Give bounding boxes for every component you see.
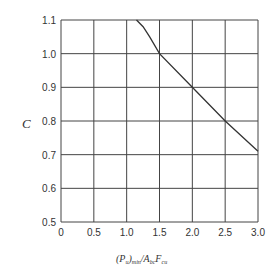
tick-label: 1.1 [42, 15, 56, 26]
tick-label: 0.5 [42, 217, 56, 228]
tick-label: 3.0 [251, 227, 265, 238]
tick-label: 0.6 [42, 183, 56, 194]
tick-label: 1.0 [42, 49, 56, 60]
tick-label: 0.9 [42, 82, 56, 93]
tick-label: 2.0 [185, 227, 199, 238]
chart: 00.51.01.52.02.53.00.50.60.70.80.91.01.1… [0, 0, 273, 276]
tick-label: 0 [58, 227, 64, 238]
tick-label: 1.5 [153, 227, 167, 238]
tick-label: 2.5 [218, 227, 232, 238]
tick-label: 0.8 [42, 116, 56, 127]
x-axis-label: (Pu)min/AbcFcu [116, 253, 167, 265]
data-curve [137, 20, 259, 151]
y-axis-label: C [22, 116, 31, 131]
tick-label: 1.0 [120, 227, 134, 238]
tick-label: 0.7 [42, 150, 56, 161]
grid-lines [61, 20, 258, 222]
tick-label: 0.5 [87, 227, 101, 238]
